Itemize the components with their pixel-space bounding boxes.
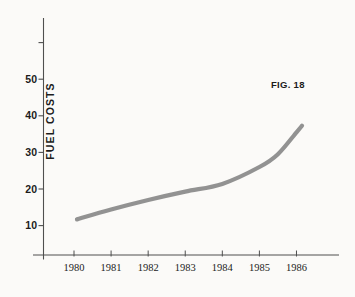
x-tick-label: 1980 [56, 262, 92, 273]
figure-label: FIG. 18 [271, 79, 305, 90]
y-axis-title: FUEL COSTS [44, 82, 56, 159]
y-tick-label: 20 [14, 184, 37, 195]
y-tick-label: 50 [14, 74, 37, 85]
y-tick-label: 30 [14, 147, 37, 158]
y-tick-label: 10 [14, 220, 37, 231]
x-tick-label: 1985 [241, 262, 277, 273]
y-tick-label: 40 [14, 110, 37, 121]
x-tick-label: 1981 [93, 262, 129, 273]
x-tick-label: 1984 [204, 262, 240, 273]
fuel-costs-figure: FUEL COSTS FIG. 18 1020304050 1980198119… [0, 0, 355, 297]
x-tick-label: 1986 [278, 262, 314, 273]
fuel-cost-curve [77, 126, 302, 220]
x-tick-label: 1982 [130, 262, 166, 273]
x-tick-label: 1983 [167, 262, 203, 273]
